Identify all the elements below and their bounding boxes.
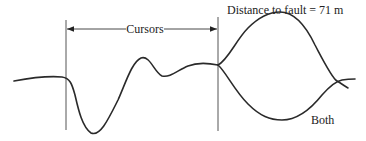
waveform-trace <box>14 58 218 134</box>
waveform-upper-branch <box>218 12 348 88</box>
both-label: Both <box>311 113 334 127</box>
tdr-waveform-diagram: Cursors Distance to fault = 71 m Both <box>0 0 366 141</box>
distance-to-fault-label: Distance to fault = 71 m <box>227 3 344 17</box>
cursors-label: Cursors <box>126 22 164 36</box>
waveform-lower-branch <box>218 65 355 120</box>
